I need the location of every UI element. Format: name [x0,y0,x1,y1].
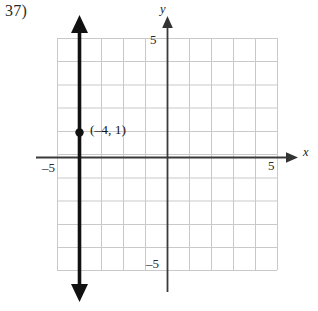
y-axis-tick-label-negative-5: –5 [146,256,159,272]
plotted-point-marker [75,128,83,136]
coordinate-plane-svg [0,0,318,311]
line-down-arrow-icon [71,284,88,302]
x-axis-tick-label-negative-5: –5 [42,160,55,176]
line-up-arrow-icon [71,15,88,33]
plotted-point-label: (–4, 1) [90,122,126,138]
x-axis-arrow-icon [286,152,298,163]
x-axis-name-label: x [303,145,309,160]
graph-canvas: 37) [0,0,318,311]
x-axis-tick-label-positive-5: 5 [268,158,275,174]
y-axis-arrow-icon [162,16,173,28]
y-axis-tick-label-positive-5: 5 [150,32,157,48]
plotted-line-x-equals-negative-4 [71,15,88,302]
y-axis-name-label: y [160,2,166,17]
